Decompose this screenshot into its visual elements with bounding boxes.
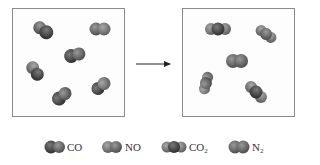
molecule-co2 [205,23,231,36]
molecule-no [90,23,111,36]
molecule-n2 [226,54,248,68]
molecule-co2 [197,70,215,95]
legend-label-co2: CO2 [189,140,208,158]
legend-no-icon [102,141,122,153]
molecule-co [30,18,56,42]
legend-n2-icon [229,141,250,154]
molecule-co [63,46,87,65]
molecule-co2 [242,78,270,106]
molecule-co2 [253,22,279,45]
legend-label-co: CO [67,140,82,158]
molecule-co [49,84,74,109]
legend-label-no: NO [125,140,141,158]
legend-co-icon [45,141,66,154]
legend-label-n2: N2 [252,140,263,158]
molecule-no [89,74,113,97]
molecule-no [24,59,47,84]
legend-co2-icon [162,141,187,153]
